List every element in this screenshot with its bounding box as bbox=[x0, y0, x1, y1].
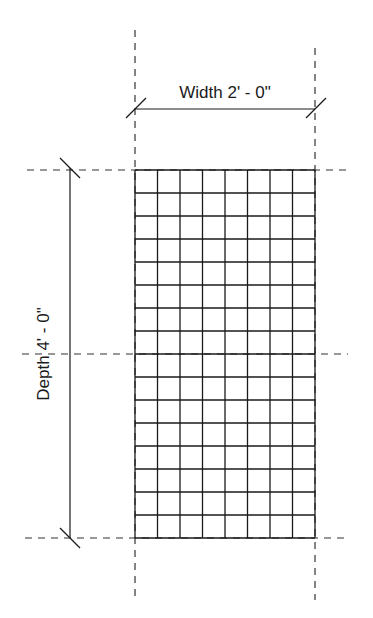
depth-dimension bbox=[60, 158, 80, 548]
width-tick-right bbox=[306, 98, 326, 118]
width-tick-left bbox=[126, 98, 146, 118]
depth-label: Depth 4' - 0" bbox=[34, 307, 53, 400]
width-label: Width 2' - 0" bbox=[179, 83, 270, 102]
tile-grid bbox=[135, 170, 315, 538]
diagram-canvas: Width 2' - 0" Depth 4' - 0" bbox=[0, 0, 373, 618]
